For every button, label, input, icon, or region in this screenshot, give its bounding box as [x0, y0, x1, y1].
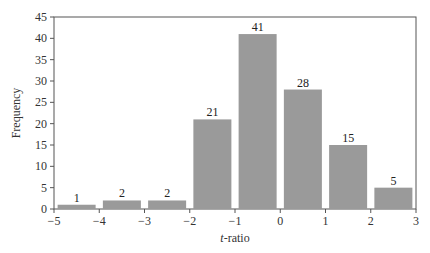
x-tick-label: −4 — [93, 214, 106, 228]
y-tick-label: 30 — [35, 74, 47, 88]
y-tick-label: 0 — [41, 202, 47, 216]
bar-value-label: 1 — [74, 191, 80, 205]
x-axis-title: t-ratio — [220, 231, 249, 245]
bar-value-label: 41 — [252, 20, 264, 34]
bar — [58, 205, 96, 209]
y-axis-title: Frequency — [9, 88, 23, 139]
x-tick-label: −3 — [138, 214, 151, 228]
x-tick-label: 3 — [413, 214, 419, 228]
bar — [329, 145, 367, 209]
x-tick-label: −2 — [183, 214, 196, 228]
bar-value-label: 5 — [390, 174, 396, 188]
bar — [103, 200, 141, 209]
bar-value-label: 15 — [342, 131, 354, 145]
x-tick-label: −5 — [48, 214, 61, 228]
x-tick-label: 0 — [277, 214, 283, 228]
y-tick-label: 45 — [35, 10, 47, 24]
y-tick-label: 35 — [35, 53, 47, 67]
y-tick-label: 5 — [41, 181, 47, 195]
bars — [58, 34, 413, 209]
bar — [374, 188, 412, 209]
x-tick-label: 1 — [323, 214, 329, 228]
bar-value-label: 21 — [206, 105, 218, 119]
bar-value-label: 2 — [164, 186, 170, 200]
y-axis: 051015202530354045 — [35, 10, 54, 216]
y-tick-label: 40 — [35, 31, 47, 45]
y-tick-label: 25 — [35, 95, 47, 109]
y-tick-label: 20 — [35, 117, 47, 131]
bar — [148, 200, 186, 209]
y-tick-label: 10 — [35, 159, 47, 173]
y-tick-label: 15 — [35, 138, 47, 152]
x-tick-label: 2 — [368, 214, 374, 228]
bar — [284, 90, 322, 209]
bar-value-label: 2 — [119, 186, 125, 200]
histogram-chart: 122214128155 −5−4−3−2−10123 051015202530… — [0, 0, 430, 253]
bar — [193, 119, 231, 209]
bar — [239, 34, 277, 209]
x-axis: −5−4−3−2−10123 — [48, 209, 419, 228]
bar-value-label: 28 — [297, 76, 309, 90]
x-tick-label: −1 — [229, 214, 242, 228]
